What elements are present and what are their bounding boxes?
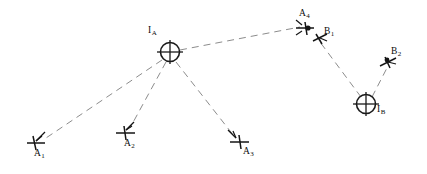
node-label-ib: IB — [377, 105, 385, 115]
node-label-a3: A3 — [243, 147, 254, 157]
link-ia-a1 — [46, 60, 162, 138]
node-ib-symbol — [353, 92, 379, 116]
node-a4-symbol — [296, 20, 314, 35]
link-ib-b2 — [372, 66, 388, 97]
link-ia-a2 — [130, 62, 166, 128]
link-ia-a4 — [180, 27, 300, 50]
diagram-canvas: IA IB A1 A2 A3 A4 B1 B2 — [0, 0, 427, 174]
diagram-svg — [0, 0, 427, 174]
link-ib-b1 — [320, 42, 361, 97]
node-b2-symbol — [380, 57, 396, 68]
link-layer — [46, 27, 388, 138]
node-label-a2: A2 — [124, 139, 135, 149]
node-label-a4: A4 — [299, 9, 310, 19]
node-label-b2: B2 — [391, 47, 401, 57]
node-label-a1: A1 — [34, 149, 45, 159]
link-ia-a3 — [176, 62, 234, 136]
node-label-b1: B1 — [324, 27, 334, 37]
node-label-ia: IA — [148, 26, 157, 36]
